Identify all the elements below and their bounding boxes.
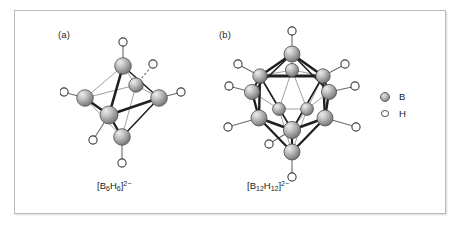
- hydrogen-circle-icon: [378, 110, 392, 118]
- structure-b6h6-octahedron: [60, 36, 192, 172]
- legend: B H: [378, 88, 430, 122]
- structure-b12h12-icosahedron: [215, 26, 371, 188]
- legend-label-boron: B: [399, 91, 405, 102]
- cage-edge-front-group: [85, 66, 159, 137]
- legend-item-boron: B: [378, 88, 430, 105]
- boron-sphere-icon: [378, 92, 392, 102]
- legend-item-hydrogen: H: [378, 105, 430, 122]
- legend-label-hydrogen: H: [399, 108, 406, 119]
- formula-caption-b6h6: [B6H6]2−: [97, 180, 131, 192]
- formula-caption-b12h12: [B12H12]2−: [247, 180, 289, 192]
- figure-root: (a) (b): [0, 0, 465, 227]
- boron-atom-group: [77, 58, 168, 146]
